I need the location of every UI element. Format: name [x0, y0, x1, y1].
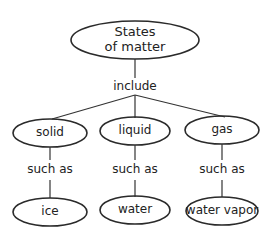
liquid-link-label: such as — [112, 163, 157, 177]
root-node-label: States of matter — [105, 25, 166, 55]
root-link-label: include — [113, 80, 156, 94]
branch-solid — [52, 95, 135, 119]
liquid-node-label: liquid — [119, 124, 152, 138]
ice-node-label: ice — [41, 205, 58, 219]
root-label-line1: States — [105, 25, 166, 40]
branch-gas — [135, 95, 225, 117]
solid-link-label: such as — [27, 163, 72, 177]
root-label-line2: of matter — [105, 40, 166, 55]
gas-node-label: gas — [211, 123, 232, 137]
solid-node-label: solid — [36, 126, 64, 140]
gas-link-label: such as — [199, 163, 244, 177]
water-node-label: water — [118, 203, 152, 217]
water-vapor-node-label: water vapor — [186, 204, 258, 218]
